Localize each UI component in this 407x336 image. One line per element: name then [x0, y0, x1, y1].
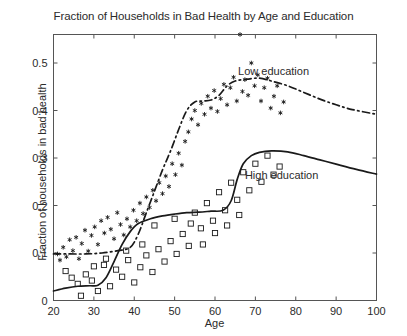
svg-text:0.2: 0.2 — [32, 200, 47, 212]
svg-text:0.1: 0.1 — [32, 247, 47, 259]
svg-text:0.4: 0.4 — [32, 105, 47, 117]
svg-text:High education: High education — [245, 169, 318, 181]
chart-figure: Fraction of Households in Bad Health by … — [0, 0, 407, 336]
fitted-curves — [54, 78, 377, 291]
svg-text:Low education: Low education — [238, 65, 309, 77]
axis-ticks — [54, 35, 377, 301]
axes-box — [54, 35, 377, 301]
svg-text:70: 70 — [249, 305, 261, 317]
svg-text:50: 50 — [169, 305, 181, 317]
svg-text:0.5: 0.5 — [32, 57, 47, 69]
svg-text:90: 90 — [330, 305, 342, 317]
svg-text:100: 100 — [367, 305, 385, 317]
svg-text:0.3: 0.3 — [32, 152, 47, 164]
svg-text:60: 60 — [209, 305, 221, 317]
svg-text:30: 30 — [88, 305, 100, 317]
svg-text:80: 80 — [290, 305, 302, 317]
svg-text:40: 40 — [128, 305, 140, 317]
svg-text:0: 0 — [41, 295, 47, 307]
svg-text:20: 20 — [47, 305, 59, 317]
plot-canvas: 203040506070809010000.10.20.30.40.5 Low … — [0, 0, 407, 336]
